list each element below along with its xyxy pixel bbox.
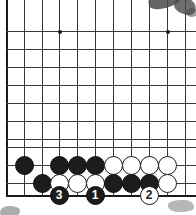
scan-smudge-icon: [168, 200, 194, 212]
go-board-diagram: 312: [0, 0, 196, 215]
scan-smudge-icon: [0, 206, 20, 215]
scan-artifact-layer: [0, 0, 196, 215]
scan-smudge-icon: [186, 8, 196, 17]
